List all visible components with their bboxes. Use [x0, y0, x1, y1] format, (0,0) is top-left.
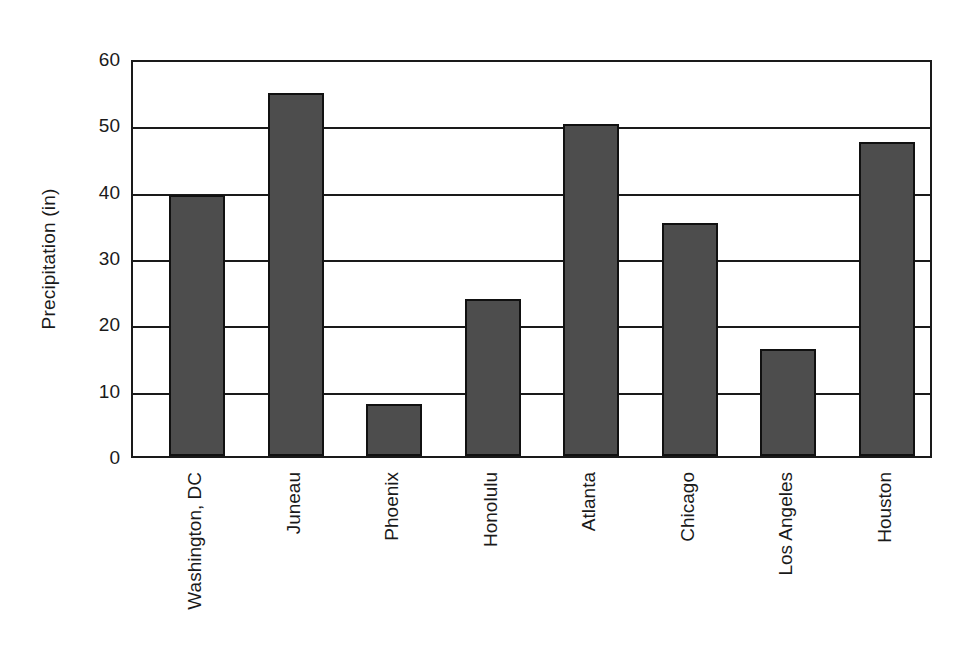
y-tick-label-10: 10 [76, 382, 120, 401]
y-tick-label-30: 30 [76, 249, 120, 268]
plot-area [131, 60, 932, 458]
y-tick-label-0: 0 [76, 448, 120, 467]
bar [859, 142, 915, 456]
x-tick-label: Washington, DC [185, 472, 205, 642]
x-tick-label: Juneau [284, 472, 304, 642]
x-tick-label: Los Angeles [776, 472, 796, 642]
y-tick-label-60: 60 [76, 50, 120, 69]
x-tick-label: Honolulu [481, 472, 501, 642]
gridline-40 [133, 194, 930, 196]
bar [465, 299, 521, 456]
bar [563, 124, 619, 456]
gridline-30 [133, 260, 930, 262]
y-tick-label-40: 40 [76, 183, 120, 202]
bar-chart-figure: Precipitation (in) 0102030405060 Washing… [0, 0, 975, 652]
y-axis-title: Precipitation (in) [38, 60, 60, 458]
bar [169, 195, 225, 456]
bar [268, 93, 324, 456]
x-tick-label: Phoenix [382, 472, 402, 642]
x-tick-label: Houston [875, 472, 895, 642]
x-tick-label: Atlanta [579, 472, 599, 642]
x-tick-label: Chicago [678, 472, 698, 642]
bar [760, 349, 816, 456]
gridline-20 [133, 326, 930, 328]
gridline-50 [133, 127, 930, 129]
bar [662, 223, 718, 456]
y-tick-label-50: 50 [76, 116, 120, 135]
y-tick-label-20: 20 [76, 315, 120, 334]
bar [366, 404, 422, 456]
